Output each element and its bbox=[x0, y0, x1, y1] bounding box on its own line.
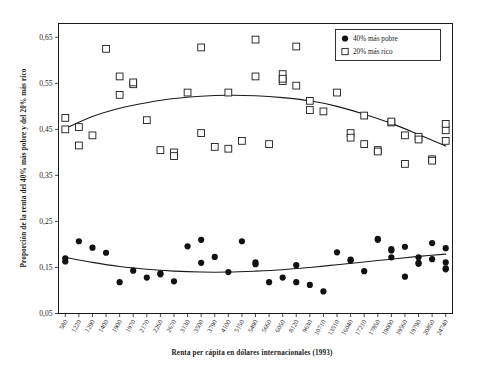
data-point-rich bbox=[361, 112, 368, 119]
data-point-poor bbox=[402, 274, 408, 280]
data-point-rich bbox=[184, 89, 191, 96]
data-point-rich bbox=[211, 143, 218, 150]
legend-label-rich: 20% más rico bbox=[353, 48, 393, 56]
data-point-rich bbox=[442, 127, 449, 134]
data-point-poor bbox=[443, 259, 449, 265]
data-point-poor bbox=[415, 261, 421, 267]
data-point-poor bbox=[429, 240, 435, 246]
data-point-rich bbox=[239, 137, 246, 144]
data-point-poor bbox=[184, 243, 190, 249]
data-point-rich bbox=[361, 141, 368, 148]
data-point-rich bbox=[198, 44, 205, 51]
data-point-poor bbox=[212, 254, 218, 260]
data-point-poor bbox=[293, 279, 299, 285]
data-point-rich bbox=[429, 157, 436, 164]
data-point-rich bbox=[347, 134, 354, 141]
data-point-rich bbox=[279, 75, 286, 82]
data-point-rich bbox=[374, 148, 381, 155]
y-tick-label: 0,45 bbox=[39, 125, 52, 134]
data-point-poor bbox=[103, 250, 109, 256]
data-point-poor bbox=[198, 237, 204, 243]
data-point-poor bbox=[375, 236, 381, 242]
data-point-poor bbox=[429, 256, 435, 262]
data-point-poor bbox=[443, 245, 449, 251]
data-point-poor bbox=[402, 244, 408, 250]
data-point-poor bbox=[225, 269, 231, 275]
data-point-rich bbox=[402, 161, 409, 168]
data-point-poor bbox=[361, 268, 367, 274]
data-point-poor bbox=[307, 282, 313, 288]
data-point-rich bbox=[171, 153, 178, 160]
data-point-poor bbox=[144, 275, 150, 281]
legend-label-poor: 40% más pobre bbox=[353, 35, 398, 43]
data-point-rich bbox=[89, 132, 96, 139]
data-point-rich bbox=[62, 114, 69, 121]
data-point-rich bbox=[306, 97, 313, 104]
data-point-poor bbox=[239, 238, 245, 244]
data-point-poor bbox=[280, 275, 286, 281]
y-tick-label: 0,25 bbox=[39, 217, 52, 226]
data-point-poor bbox=[89, 245, 95, 251]
data-point-rich bbox=[116, 91, 123, 98]
data-point-rich bbox=[293, 82, 300, 89]
data-point-rich bbox=[334, 89, 341, 96]
data-point-poor bbox=[293, 262, 299, 268]
x-axis-title: Renta per cápita en dólares internaciona… bbox=[172, 349, 333, 357]
data-point-rich bbox=[306, 107, 313, 114]
data-point-rich bbox=[252, 36, 259, 43]
scatter-chart: 0,050,150,250,350,450,550,65 58012201290… bbox=[0, 0, 484, 373]
data-point-rich bbox=[116, 73, 123, 80]
y-axis-title: Proporción de la renta del 40% más pobre… bbox=[20, 68, 28, 267]
data-point-rich bbox=[130, 79, 137, 86]
data-point-poor bbox=[62, 258, 68, 264]
data-point-poor bbox=[348, 257, 354, 263]
data-point-poor bbox=[320, 288, 326, 294]
data-point-rich bbox=[320, 108, 327, 115]
data-point-poor bbox=[198, 260, 204, 266]
data-point-poor bbox=[388, 246, 394, 252]
chart-canvas: 0,050,150,250,350,450,550,65 58012201290… bbox=[0, 0, 484, 373]
data-point-rich bbox=[415, 136, 422, 143]
y-tick-label: 0,55 bbox=[39, 79, 52, 88]
data-point-poor bbox=[252, 261, 258, 267]
legend-marker-filled-circle-icon bbox=[342, 35, 348, 41]
data-point-poor bbox=[76, 238, 82, 244]
data-point-poor bbox=[171, 278, 177, 284]
data-point-rich bbox=[143, 117, 150, 124]
data-point-poor bbox=[334, 249, 340, 255]
data-point-poor bbox=[117, 279, 123, 285]
data-point-rich bbox=[402, 132, 409, 139]
data-point-poor bbox=[443, 266, 449, 272]
data-point-poor bbox=[130, 268, 136, 274]
data-point-rich bbox=[252, 73, 259, 80]
chart-legend: 40% más pobre 20% más rico bbox=[336, 30, 441, 61]
data-point-rich bbox=[442, 120, 449, 127]
y-tick-label: 0,05 bbox=[39, 309, 52, 318]
data-point-rich bbox=[62, 126, 69, 133]
data-point-rich bbox=[103, 45, 110, 52]
data-point-rich bbox=[75, 142, 82, 149]
data-point-poor bbox=[266, 279, 272, 285]
data-point-poor bbox=[415, 254, 421, 260]
data-point-rich bbox=[388, 118, 395, 125]
y-tick-label: 0,65 bbox=[39, 33, 52, 42]
data-point-rich bbox=[442, 137, 449, 144]
data-point-rich bbox=[225, 145, 232, 152]
data-point-rich bbox=[266, 141, 273, 148]
y-tick-label: 0,15 bbox=[39, 263, 52, 272]
data-point-rich bbox=[157, 147, 164, 154]
data-point-rich bbox=[293, 43, 300, 50]
data-point-poor bbox=[388, 254, 394, 260]
data-point-rich bbox=[198, 130, 205, 137]
y-tick-label: 0,35 bbox=[39, 171, 52, 180]
legend-marker-open-square-icon bbox=[342, 48, 348, 54]
data-point-poor bbox=[157, 271, 163, 277]
data-point-rich bbox=[225, 89, 232, 96]
data-point-rich bbox=[75, 124, 82, 131]
